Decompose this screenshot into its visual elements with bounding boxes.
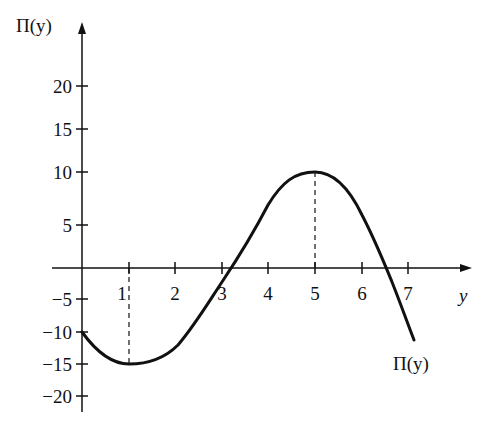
y-tick-label: 20 (53, 76, 72, 97)
x-tick-label: 6 (357, 283, 367, 304)
x-tick-label: 7 (403, 283, 413, 304)
y-tick-label: −20 (42, 386, 72, 407)
chart-canvas: 20 15 10 5 −5 −10 −15 −20 1 2 3 4 5 6 7 … (0, 0, 483, 422)
x-tick-label: 2 (170, 283, 180, 304)
y-axis-title: Π(y) (16, 15, 52, 37)
y-tick-label: −15 (42, 354, 72, 375)
x-tick-label: 1 (117, 283, 127, 304)
x-axis-title: y (457, 285, 468, 306)
y-axis-arrow-icon (78, 22, 86, 34)
y-tick-label: 15 (53, 119, 72, 140)
curve-label: Π(y) (393, 353, 429, 375)
y-tick-label: 5 (63, 215, 73, 236)
x-axis-arrow-icon (460, 264, 472, 272)
y-tick-label: −5 (52, 289, 72, 310)
x-tick-label: 4 (263, 283, 273, 304)
y-tick-labels: 20 15 10 5 −5 −10 −15 −20 (42, 76, 72, 407)
x-tick-labels: 1 2 3 4 5 6 7 (117, 283, 413, 304)
y-tick-label: 10 (53, 162, 72, 183)
y-tick-label: −10 (42, 322, 72, 343)
x-tick-label: 5 (310, 283, 320, 304)
